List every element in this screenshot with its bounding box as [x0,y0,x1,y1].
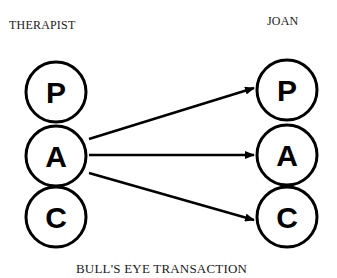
joan-adult-letter: A [276,139,298,172]
therapist-parent-state: P [26,62,86,122]
joan-adult-state: A [257,125,317,185]
joan-parent-state: P [257,60,317,120]
therapist-adult-letter: A [45,140,67,173]
ego-state-diagram: P A C P A C [0,0,337,278]
therapist-child-state: C [26,187,86,247]
joan-parent-letter: P [277,74,297,107]
arrow-adult-to-child [89,173,254,220]
joan-child-state: C [257,187,317,247]
therapist-child-letter: C [45,201,67,234]
joan-child-letter: C [276,201,298,234]
arrow-adult-to-parent [89,88,254,139]
therapist-adult-state: A [26,126,86,186]
diagram-caption: BULL'S EYE TRANSACTION [76,261,247,277]
therapist-parent-letter: P [46,76,66,109]
